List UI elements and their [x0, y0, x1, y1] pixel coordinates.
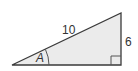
side-label: 6 [125, 35, 132, 49]
hypotenuse-label: 10 [62, 23, 76, 37]
right-triangle-diagram: 10 6 A [0, 0, 138, 71]
angle-label: A [35, 51, 44, 65]
triangle [12, 13, 121, 65]
